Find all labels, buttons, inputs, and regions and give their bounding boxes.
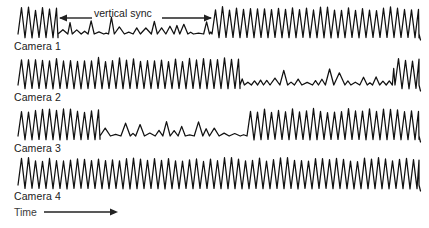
trace-label-camera-4: Camera 4 [14, 190, 61, 202]
trace-label-camera-3: Camera 3 [14, 142, 61, 154]
waveform-canvas [0, 0, 429, 228]
waveform-trace-4 [18, 158, 421, 191]
trace-label-camera-2: Camera 2 [14, 91, 61, 103]
trace-label-camera-1: Camera 1 [14, 40, 61, 52]
time-arrow-head [110, 208, 118, 215]
traces-group [18, 7, 421, 191]
vertical-sync-arrow-right-head [204, 14, 212, 21]
waveform-figure: Camera 1 Camera 2 Camera 3 Camera 4 vert… [0, 0, 429, 228]
waveform-trace-3 [18, 108, 421, 142]
waveform-trace-1 [18, 7, 421, 40]
vertical-sync-label: vertical sync [94, 7, 152, 19]
time-axis-label: Time [14, 206, 37, 218]
waveform-trace-2 [18, 57, 421, 91]
vertical-sync-arrow-left-head [59, 14, 67, 21]
